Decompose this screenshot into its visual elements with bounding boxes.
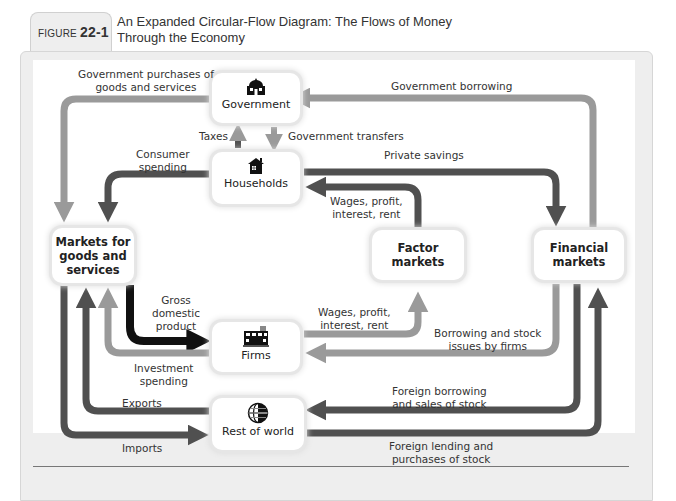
label-foreign-lending: Foreign lending and purchases of stock [389,440,493,466]
markets-goods-line2: goods and [56,249,131,263]
gov-purchases-line2: goods and services [78,81,214,94]
consumer-spending-line1: Consumer [136,148,190,161]
taxes-line1: Taxes [199,130,228,143]
government-label: Government [212,98,300,111]
label-exports: Exports [122,397,162,410]
label-gov-transfers: Government transfers [288,130,404,143]
label-borrowing-stock: Borrowing and stock issues by firms [434,327,541,353]
borrowing-stock-line1: Borrowing and stock [434,327,541,340]
consumer-spending-line2: spending [136,161,190,174]
factor-markets-line2: markets [392,255,445,269]
imports-line1: Imports [122,442,162,455]
node-rest-of-world: Rest of world [212,398,304,450]
investment-spending-line1: Investment [134,362,193,375]
government-building-icon [245,77,267,97]
gov-transfers-line1: Government transfers [288,130,404,143]
gdp-line1: Gross [152,294,200,307]
node-financial-markets: Financial markets [534,230,624,280]
wages-from-firms-line2: interest, rent [318,319,391,332]
firms-label: Firms [212,349,300,362]
investment-spending-line2: spending [134,375,193,388]
label-private-savings: Private savings [384,149,464,162]
wages-from-firms-line1: Wages, profit, [318,306,391,319]
label-investment-spending: Investment spending [134,362,193,388]
gdp-line3: product [152,320,200,333]
label-gov-purchases: Government purchases of goods and servic… [78,68,214,94]
label-consumer-spending: Consumer spending [136,148,190,174]
foreign-lending-line1: Foreign lending and [389,440,493,453]
label-wages-from-firms: Wages, profit, interest, rent [318,306,391,332]
label-foreign-borrowing: Foreign borrowing and sales of stock [392,385,487,411]
label-gov-borrowing: Government borrowing [391,80,512,93]
exports-line1: Exports [122,397,162,410]
factory-icon [242,326,270,348]
financial-markets-line2: markets [550,255,608,269]
financial-markets-line1: Financial [550,241,608,255]
foreign-borrowing-line1: Foreign borrowing [392,385,487,398]
private-savings-line1: Private savings [384,149,464,162]
markets-goods-line3: services [56,263,131,277]
borrowing-stock-line2: issues by firms [434,340,541,353]
label-gdp: Gross domestic product [152,294,200,333]
foreign-borrowing-line2: and sales of stock [392,398,487,411]
node-firms: Firms [212,322,300,372]
node-markets-goods-services: Markets for goods and services [52,228,134,283]
gov-purchases-line1: Government purchases of [78,68,214,81]
node-factor-markets: Factor markets [372,230,464,280]
gov-borrowing-line1: Government borrowing [391,80,512,93]
gdp-line2: domestic [152,307,200,320]
foreign-lending-line2: purchases of stock [389,453,493,466]
globe-icon [247,402,269,424]
flow-consumer-spending [108,174,210,210]
label-imports: Imports [122,442,162,455]
markets-goods-line1: Markets for [56,235,131,249]
label-wages-to-households: Wages, profit, interest, rent [330,195,403,221]
factor-markets-line1: Factor [392,241,445,255]
node-households: Households [212,152,300,204]
wages-to-households-line1: Wages, profit, [330,195,403,208]
node-government: Government [212,73,300,123]
house-icon [246,156,266,176]
rest-of-world-label: Rest of world [212,425,304,438]
label-taxes: Taxes [199,130,228,143]
wages-to-households-line2: interest, rent [330,208,403,221]
households-label: Households [212,177,300,190]
